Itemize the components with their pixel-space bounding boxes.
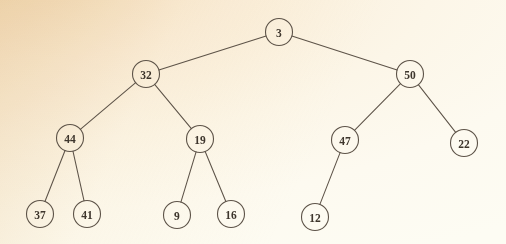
node-label: 16: [225, 209, 237, 221]
tree-node[interactable]: 47: [332, 127, 359, 154]
tree-node[interactable]: 50: [397, 61, 424, 88]
diagram-canvas: 3325044194722374191612: [0, 0, 506, 244]
tree-node[interactable]: 12: [302, 204, 329, 231]
tree-node[interactable]: 19: [187, 126, 214, 153]
node-label: 9: [174, 210, 180, 222]
node-label: 47: [339, 135, 351, 147]
tree-edge: [73, 151, 84, 201]
node-label: 50: [404, 69, 416, 81]
node-label: 41: [81, 209, 93, 221]
tree-edge: [80, 83, 135, 130]
tree-edge: [159, 36, 266, 70]
node-label: 12: [309, 212, 321, 224]
tree-node[interactable]: 41: [74, 201, 101, 228]
tree-edge: [155, 84, 192, 128]
tree-node[interactable]: 3: [266, 19, 293, 46]
tree-edge: [292, 36, 397, 70]
tree-edge: [205, 151, 226, 201]
tree-edge: [320, 153, 340, 205]
tree-node[interactable]: 9: [164, 202, 191, 229]
binary-tree-graphic: 3325044194722374191612: [0, 0, 506, 244]
tree-nodes: 3325044194722374191612: [27, 19, 478, 231]
tree-node[interactable]: 37: [27, 201, 54, 228]
tree-edge: [45, 151, 65, 202]
tree-edge: [181, 152, 196, 202]
tree-node[interactable]: 44: [57, 125, 84, 152]
node-label: 37: [34, 209, 46, 221]
tree-edges: [45, 36, 456, 204]
tree-node[interactable]: 32: [133, 61, 160, 88]
tree-node[interactable]: 16: [218, 201, 245, 228]
node-label: 3: [276, 27, 282, 39]
node-label: 32: [140, 69, 152, 81]
tree-node[interactable]: 22: [451, 130, 478, 157]
node-label: 44: [64, 133, 76, 145]
node-label: 19: [194, 134, 206, 146]
node-label: 22: [458, 138, 470, 150]
tree-edge: [354, 84, 400, 131]
tree-edge: [418, 85, 455, 133]
